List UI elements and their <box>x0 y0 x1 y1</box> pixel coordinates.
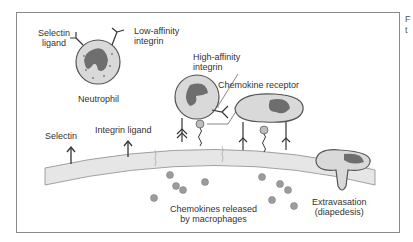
label-extravasation: Extravasation(diapedesis) <box>312 197 367 217</box>
label-neutrophil: Neutrophil <box>78 94 119 104</box>
label-selectin: Selectin <box>45 131 77 141</box>
label-low-affinity-integrin: Low-affinityintegrin <box>134 26 179 46</box>
label-selectin-ligand: Selectinligand <box>38 28 70 48</box>
neutrophil-cell <box>70 28 124 84</box>
selectin-icon <box>67 147 75 164</box>
side-text: Ft <box>405 14 411 36</box>
extravasating-neutrophil <box>316 150 370 190</box>
label-high-affinity-integrin: High-affinityintegrin <box>193 52 240 72</box>
label-chemokine-receptor: Chemokine receptor <box>218 80 299 90</box>
label-integrin-ligand: Integrin ligand <box>95 125 152 135</box>
label-chemokines: Chemokines releasedby macrophages <box>170 204 257 224</box>
adhered-neutrophil <box>235 94 303 152</box>
